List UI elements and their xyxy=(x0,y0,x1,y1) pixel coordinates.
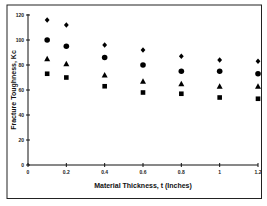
x-axis-title: Material Thickness, t (Inches) xyxy=(94,182,192,190)
y-tick-label: 120 xyxy=(16,12,25,18)
square-marker-icon xyxy=(45,71,50,76)
chart-frame xyxy=(7,5,262,199)
y-tick-label: 0 xyxy=(21,162,24,168)
y-axis-title: Fracture Toughness, Kc xyxy=(10,50,18,130)
square-marker-icon xyxy=(179,91,184,96)
circle-marker-icon xyxy=(217,68,223,74)
circle-marker-icon xyxy=(64,43,70,49)
square-marker-icon xyxy=(256,96,261,101)
y-tick-label: 80 xyxy=(18,62,24,68)
circle-marker-icon xyxy=(44,37,50,43)
y-tick-label: 40 xyxy=(18,112,24,118)
circle-marker-icon xyxy=(179,68,185,74)
x-tick-label: 0.6 xyxy=(140,169,147,175)
x-tick-label: 0.4 xyxy=(101,169,108,175)
x-tick-label: 0.2 xyxy=(63,169,70,175)
fracture-toughness-chart: 020406080100120 00.20.40.60.811.2 Fractu… xyxy=(0,0,267,206)
x-tick-label: 0 xyxy=(27,169,30,175)
y-tick-label: 100 xyxy=(16,37,25,43)
square-marker-icon xyxy=(217,95,222,100)
circle-marker-icon xyxy=(140,62,146,68)
square-marker-icon xyxy=(102,84,107,89)
circle-marker-icon xyxy=(102,55,108,61)
square-marker-icon xyxy=(141,90,146,95)
y-tick-label: 20 xyxy=(18,137,24,143)
x-tick-label: 1.2 xyxy=(255,169,262,175)
square-marker-icon xyxy=(64,75,69,80)
y-tick-label: 60 xyxy=(18,87,24,93)
x-tick-label: 0.8 xyxy=(178,169,185,175)
circle-marker-icon xyxy=(255,71,261,77)
x-tick-label: 1 xyxy=(218,169,221,175)
